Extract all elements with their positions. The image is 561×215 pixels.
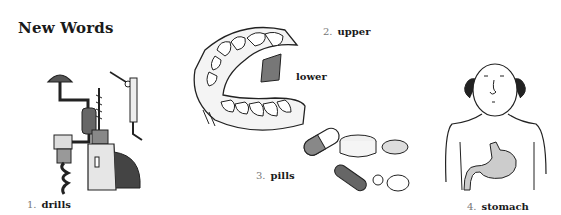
item-word: stomach	[482, 201, 529, 212]
item-label-upper: 2.upper	[323, 26, 370, 37]
drills-illustration	[30, 60, 170, 195]
pills-illustration	[300, 125, 420, 205]
item-label-lower: lower	[296, 71, 327, 82]
item-number: 4.	[467, 201, 477, 212]
item-number: 3.	[256, 170, 266, 181]
item-word: upper	[338, 26, 371, 37]
item-number: 1.	[27, 199, 37, 210]
item-secondary-word: lower	[296, 71, 327, 82]
item-number: 2.	[323, 26, 333, 37]
item-word: pills	[271, 170, 295, 181]
item-label-drills: 1.drills	[27, 199, 71, 210]
item-word: drills	[42, 199, 71, 210]
item-label-stomach: 4.stomach	[467, 201, 529, 212]
stomach-illustration	[440, 62, 560, 192]
page-title: New Words	[18, 19, 114, 37]
item-label-pills: 3.pills	[256, 170, 295, 181]
